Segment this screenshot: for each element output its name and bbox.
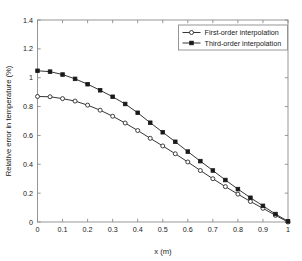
- data-point-marker: [136, 129, 140, 133]
- y-tick-label: 0.4: [23, 160, 33, 169]
- data-point-marker: [186, 160, 190, 164]
- data-point-marker: [274, 212, 278, 216]
- chart-legend: First-order interpolationThird-order int…: [179, 25, 288, 50]
- line-chart: 00.10.20.30.40.50.60.70.80.91 00.20.40.6…: [0, 0, 302, 261]
- x-tick-label: 0: [36, 225, 40, 234]
- x-tick-label: 0.6: [183, 225, 193, 234]
- data-point-marker: [173, 152, 177, 156]
- chart-figure: 00.10.20.30.40.50.60.70.80.91 00.20.40.6…: [0, 0, 302, 261]
- x-axis-label: x (m): [154, 247, 172, 256]
- data-point-marker: [111, 114, 115, 118]
- data-point-marker: [199, 159, 203, 163]
- legend-sample-marker: [190, 31, 194, 35]
- data-point-marker: [73, 77, 77, 81]
- data-point-marker: [261, 204, 265, 208]
- data-point-marker: [211, 177, 215, 181]
- data-point-marker: [161, 130, 165, 134]
- legend-sample-marker: [190, 41, 194, 45]
- legend-label: First-order interpolation: [205, 28, 279, 37]
- y-tick-label: 0: [29, 218, 33, 227]
- data-point-marker: [86, 103, 90, 107]
- x-tick-label: 0.9: [258, 225, 268, 234]
- x-tick-label: 0.8: [233, 225, 243, 234]
- y-tick-label: 1: [29, 73, 33, 82]
- data-point-marker: [148, 136, 152, 140]
- data-point-marker: [186, 150, 190, 154]
- data-point-marker: [236, 192, 240, 196]
- data-point-marker: [36, 69, 40, 73]
- data-point-marker: [161, 144, 165, 148]
- data-point-marker: [224, 178, 228, 182]
- x-tick-label: 0.5: [158, 225, 168, 234]
- data-point-marker: [248, 200, 252, 204]
- y-tick-label: 1.4: [23, 16, 33, 25]
- y-tick-label: 0.2: [23, 189, 33, 198]
- data-point-marker: [86, 82, 90, 86]
- data-point-marker: [198, 168, 202, 172]
- y-tick-label: 0.8: [23, 102, 33, 111]
- data-point-marker: [48, 70, 52, 74]
- data-point-marker: [123, 121, 127, 125]
- data-point-marker: [148, 121, 152, 125]
- data-point-marker: [236, 187, 240, 191]
- data-point-marker: [36, 94, 40, 98]
- data-point-marker: [61, 97, 65, 101]
- x-tick-label: 0.3: [108, 225, 118, 234]
- data-point-marker: [61, 73, 65, 77]
- x-tick-label: 1: [286, 225, 290, 234]
- data-point-marker: [211, 169, 215, 173]
- data-point-marker: [98, 108, 102, 112]
- data-point-marker: [223, 185, 227, 189]
- data-point-marker: [249, 196, 253, 200]
- data-point-marker: [173, 140, 177, 144]
- x-tick-label: 0.7: [208, 225, 218, 234]
- data-point-marker: [111, 95, 115, 99]
- x-tick-label: 0.2: [83, 225, 93, 234]
- data-point-marker: [123, 102, 127, 106]
- x-tick-label: 0.4: [133, 225, 143, 234]
- data-point-marker: [48, 95, 52, 99]
- y-tick-label: 1.2: [23, 44, 33, 53]
- x-tick-label: 0.1: [58, 225, 68, 234]
- data-point-marker: [136, 111, 140, 115]
- legend-label: Third-order interpolation: [205, 39, 282, 48]
- y-tick-label: 0.6: [23, 131, 33, 140]
- data-point-marker: [286, 219, 290, 223]
- data-point-marker: [98, 88, 102, 92]
- y-axis-label: Relative error in temperature (%): [4, 65, 13, 176]
- data-point-marker: [73, 99, 77, 103]
